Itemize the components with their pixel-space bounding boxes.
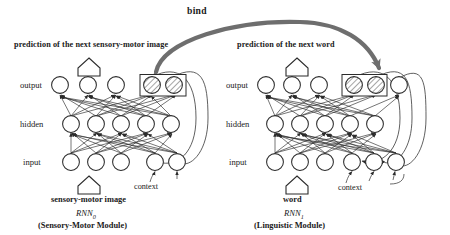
bind-label: bind: [187, 6, 207, 16]
rnn-sub-left: 0: [93, 213, 96, 220]
input-label-right: word: [283, 196, 302, 204]
rnn-name-right: RNN1: [284, 209, 304, 220]
rnn-base-right: RNN: [284, 208, 301, 218]
diagram-canvas: bind prediction of the next sensory-moto…: [0, 0, 450, 235]
hidden-nodes-right: [267, 116, 384, 133]
module-name-right: (Linguistic Module): [254, 222, 325, 230]
input-arrow-icon-left: [78, 176, 100, 194]
input-arrow-icon-right: [286, 176, 308, 194]
prediction-arrow-icon-left: [78, 58, 100, 76]
rnn-base-left: RNN: [76, 208, 93, 218]
context-leader-left: [150, 172, 177, 183]
context-label-right: context: [338, 184, 362, 192]
connections-input-to-hidden-left: [71, 133, 177, 153]
output-nodes-left: [52, 75, 186, 97]
axis-label-hidden: hidden: [20, 120, 43, 129]
axis-label-hidden-right: hidden: [226, 120, 249, 129]
rnn-sub-right: 1: [301, 213, 304, 220]
input-nodes-left: [63, 154, 186, 171]
axis-label-output: output: [20, 81, 42, 90]
module-name-left: (Sensory-Motor Module): [38, 222, 127, 230]
module-sensory-motor: [52, 58, 208, 194]
prediction-label-left: prediction of the next sensory-motor ima…: [14, 41, 168, 49]
connections-input-to-hidden-right: [275, 133, 396, 153]
rnn-name-left: RNN0: [76, 209, 96, 220]
prediction-label-right: prediction of the next word: [237, 41, 335, 49]
hidden-nodes-left: [63, 116, 180, 133]
connections-hidden-to-output-left: [60, 95, 176, 116]
context-label-left: context: [134, 183, 158, 191]
prediction-arrow-icon-right: [286, 58, 308, 76]
output-nodes-right: [258, 75, 408, 97]
axis-label-input: input: [23, 158, 41, 167]
connections-hidden-to-output-right: [266, 95, 399, 116]
axis-label-input-right: input: [229, 158, 247, 167]
input-label-left: sensory-motor image: [51, 196, 126, 204]
module-linguistic: [258, 58, 426, 194]
axis-label-output-right: output: [226, 81, 248, 90]
